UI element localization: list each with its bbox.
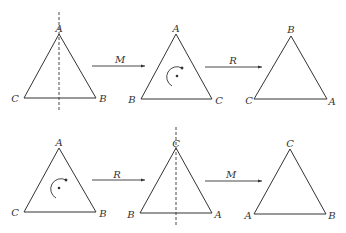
vertex-label: B — [128, 95, 135, 105]
triangle-r1-1 — [24, 34, 96, 98]
vertex-label: A — [214, 210, 221, 220]
arrow-label: M — [115, 55, 125, 65]
triangle-r2-1 — [24, 148, 96, 212]
vertex-label: B — [99, 94, 106, 104]
rotation-icon — [167, 67, 182, 86]
vertex-label: C — [11, 208, 19, 218]
arrow-label: M — [226, 170, 236, 180]
vertex-label: B — [328, 211, 335, 221]
arrow-label: R — [229, 56, 237, 66]
vertex-label: B — [287, 25, 294, 35]
vertex-label: C — [245, 96, 253, 106]
transformation-diagram: A C B M A B C R B C A A C B R C B A M C … — [0, 0, 346, 233]
vertex-label: A — [55, 138, 62, 148]
vertex-label: C — [215, 96, 223, 106]
rotation-icon — [51, 179, 66, 198]
arrow-label: R — [113, 170, 121, 180]
vertex-label: A — [55, 24, 62, 34]
vertex-label: C — [11, 94, 19, 104]
vertex-label: C — [286, 139, 294, 149]
vertex-label: C — [172, 139, 180, 149]
triangle-r1-3 — [254, 36, 327, 99]
vertex-label: A — [244, 211, 251, 221]
vertex-label: A — [328, 97, 335, 107]
vertex-label: A — [172, 24, 179, 34]
vertex-label: B — [99, 209, 106, 219]
vertex-label: B — [127, 210, 134, 220]
triangle-r2-3 — [254, 149, 326, 214]
